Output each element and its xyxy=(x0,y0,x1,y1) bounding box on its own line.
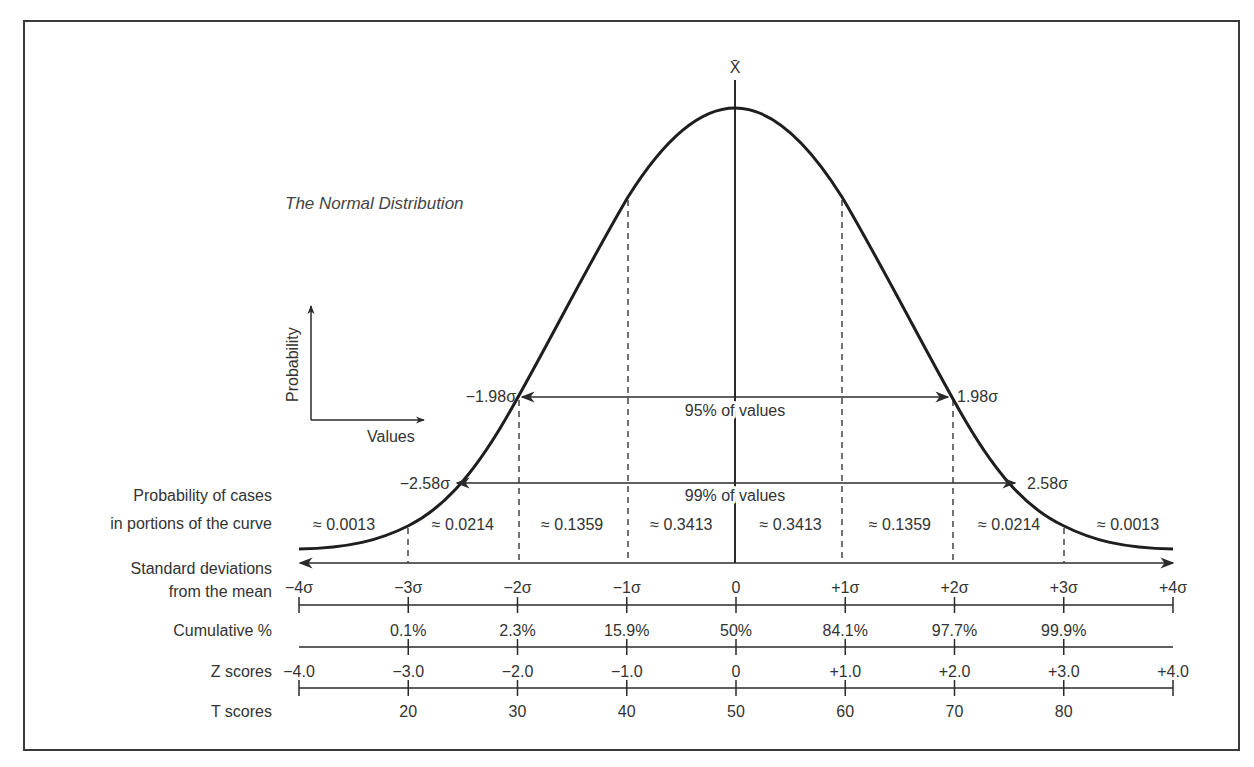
cumulative-labels: 0.1%2.3%15.9%50%84.1%97.7%99.9% xyxy=(390,622,1086,639)
z-score-label: +2.0 xyxy=(939,663,971,680)
probability-portion-label: ≈ 0.3413 xyxy=(760,516,822,533)
probability-portion-label: ≈ 0.3413 xyxy=(650,516,712,533)
stddev-tick-labels: −4σ−3σ−2σ−1σ0+1σ+2σ+3σ+4σ xyxy=(285,579,1187,596)
z-score-label: −1.0 xyxy=(611,663,643,680)
probability-row-label-2: in portions of the curve xyxy=(110,515,272,532)
interval-95-right-label: 1.98σ xyxy=(957,388,998,405)
row-labels: Probability of cases in portions of the … xyxy=(110,487,272,720)
cumulative-label: 2.3% xyxy=(499,622,535,639)
probability-row-label-1: Probability of cases xyxy=(133,487,272,504)
stddev-tick-label: +1σ xyxy=(831,579,859,596)
interval-99: 99% of values −2.58σ 2.58σ xyxy=(400,475,1069,504)
t-score-label: 30 xyxy=(509,703,527,720)
cumulative-label: 84.1% xyxy=(823,622,868,639)
z-score-label: −4.0 xyxy=(283,663,315,680)
t-score-labels: 20304050607080 xyxy=(399,703,1072,720)
stddev-tick-label: −2σ xyxy=(503,579,531,596)
interval-95-left-label: −1.98σ xyxy=(466,388,516,405)
probability-portion-label: ≈ 0.0214 xyxy=(432,516,494,533)
normal-distribution-diagram: The Normal Distribution X̄ Probability V… xyxy=(0,0,1254,767)
t-score-label: 20 xyxy=(399,703,417,720)
t-score-label: 60 xyxy=(836,703,854,720)
inset-y-label: Probability xyxy=(284,327,301,402)
t-row-label: T scores xyxy=(211,703,272,720)
cumulative-row-label: Cumulative % xyxy=(173,622,272,639)
stddev-tick-label: −3σ xyxy=(394,579,422,596)
inset-axes: Probability Values xyxy=(284,306,424,445)
stddev-tick-label: −1σ xyxy=(613,579,641,596)
stddev-tick-label: +4σ xyxy=(1159,579,1187,596)
interval-95: 95% of values −1.98σ 1.98σ xyxy=(466,388,999,419)
diagram-title: The Normal Distribution xyxy=(285,194,464,213)
interval-99-right-label: 2.58σ xyxy=(1027,475,1068,492)
z-row-label: Z scores xyxy=(211,663,272,680)
cumulative-label: 99.9% xyxy=(1041,622,1086,639)
stddev-tick-label: 0 xyxy=(732,579,741,596)
stddev-tick-label: +3σ xyxy=(1050,579,1078,596)
probability-portion-label: ≈ 0.0214 xyxy=(978,516,1040,533)
stddev-tick-label: −4σ xyxy=(285,579,313,596)
z-score-label: +1.0 xyxy=(829,663,861,680)
interval-99-left-label: −2.58σ xyxy=(400,475,450,492)
stddev-row-label-2: from the mean xyxy=(169,583,272,600)
z-score-label: +3.0 xyxy=(1048,663,1080,680)
stddev-tick-label: +2σ xyxy=(940,579,968,596)
cumulative-label: 50% xyxy=(720,622,752,639)
t-score-label: 80 xyxy=(1055,703,1073,720)
probability-portion-labels: ≈ 0.0013≈ 0.0214≈ 0.1359≈ 0.3413≈ 0.3413… xyxy=(313,516,1159,533)
t-score-label: 50 xyxy=(727,703,745,720)
interval-95-label: 95% of values xyxy=(685,402,786,419)
probability-portion-label: ≈ 0.1359 xyxy=(869,516,931,533)
cumulative-label: 0.1% xyxy=(390,622,426,639)
cumulative-label: 15.9% xyxy=(604,622,649,639)
z-score-label: 0 xyxy=(732,663,741,680)
interval-99-label: 99% of values xyxy=(685,487,786,504)
t-score-label: 40 xyxy=(618,703,636,720)
z-score-label: +4.0 xyxy=(1157,663,1189,680)
z-score-label: −3.0 xyxy=(392,663,424,680)
z-score-labels: −4.0−3.0−2.0−1.00+1.0+2.0+3.0+4.0 xyxy=(283,663,1189,680)
probability-portion-label: ≈ 0.0013 xyxy=(313,516,375,533)
probability-portion-label: ≈ 0.1359 xyxy=(541,516,603,533)
mean-symbol: X̄ xyxy=(730,59,741,76)
probability-portion-label: ≈ 0.0013 xyxy=(1097,516,1159,533)
z-score-label: −2.0 xyxy=(502,663,534,680)
inset-x-label: Values xyxy=(367,428,415,445)
t-score-label: 70 xyxy=(946,703,964,720)
stddev-row-label-1: Standard deviations xyxy=(131,560,272,577)
cumulative-label: 97.7% xyxy=(932,622,977,639)
